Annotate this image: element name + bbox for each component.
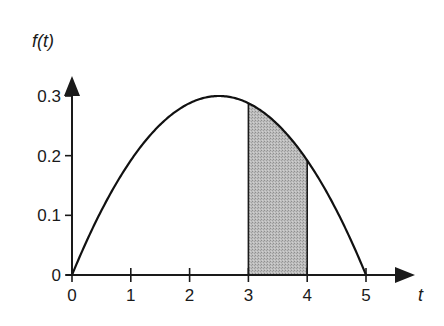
x-tick-label: 4 (302, 286, 311, 305)
y-tick-label: 0.1 (37, 206, 61, 225)
x-tick-label: 3 (244, 286, 253, 305)
probability-density-chart: 012345 00.10.20.3 f(t) t (0, 0, 444, 326)
shaded-area-3-to-4 (248, 103, 307, 275)
y-axis-arrow-icon (64, 76, 80, 96)
x-tick-label: 5 (361, 286, 370, 305)
y-tick-label: 0.2 (37, 147, 61, 166)
x-ticks: 012345 (67, 268, 370, 305)
y-tick-label: 0.3 (37, 87, 61, 106)
y-axis-title: f(t) (32, 31, 54, 51)
x-tick-label: 0 (67, 286, 76, 305)
y-axis (64, 76, 80, 275)
density-curve (72, 96, 366, 275)
x-tick-label: 2 (185, 286, 194, 305)
y-ticks: 00.10.20.3 (37, 87, 72, 285)
x-axis-arrow-icon (395, 267, 415, 283)
y-tick-label: 0 (52, 266, 61, 285)
x-axis-title: t (418, 285, 424, 305)
density-curve-path (72, 96, 366, 275)
x-tick-label: 1 (126, 286, 135, 305)
shaded-area-path (248, 103, 307, 275)
